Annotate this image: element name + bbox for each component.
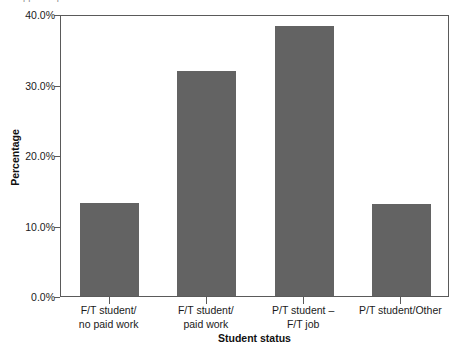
- y-tick-label: 40.0%: [3, 10, 55, 21]
- x-tick-mark: [109, 297, 110, 304]
- y-tick-label: 10.0%: [3, 222, 55, 233]
- x-tick-label-line: F/T job: [243, 318, 363, 332]
- plot-area: [60, 15, 449, 297]
- bar-series: [61, 16, 448, 296]
- x-tick-mark: [206, 297, 207, 304]
- x-tick-label: P/T student/Other: [340, 304, 458, 318]
- x-tick-label-line: P/T student/Other: [340, 304, 458, 318]
- x-tick-mark: [400, 297, 401, 304]
- bar: [275, 26, 334, 296]
- y-tick-mark: [54, 86, 60, 87]
- y-tick-mark: [54, 15, 60, 16]
- y-tick-label: 0.0%: [3, 292, 55, 303]
- y-tick-label: 20.0%: [3, 151, 55, 162]
- bar-chart-figure: Percentage 0.0%10.0%20.0%30.0%40.0% F/T …: [0, 0, 458, 351]
- y-tick-mark: [54, 297, 60, 298]
- bar: [372, 204, 431, 296]
- x-tick-mark: [303, 297, 304, 304]
- y-axis-tick-labels: 0.0%10.0%20.0%30.0%40.0%: [0, 0, 55, 351]
- y-tick-label: 30.0%: [3, 81, 55, 92]
- y-tick-mark: [54, 227, 60, 228]
- y-tick-mark: [54, 156, 60, 157]
- bar: [177, 71, 236, 296]
- bar: [80, 203, 139, 296]
- x-axis-title: Student status: [60, 332, 449, 344]
